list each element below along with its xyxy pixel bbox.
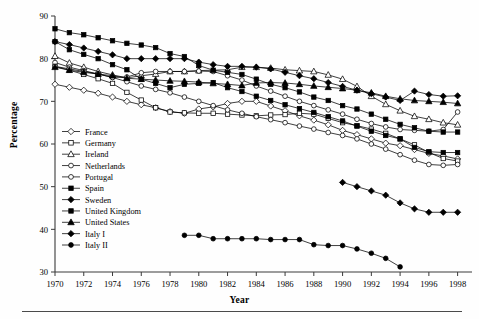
data-point-marker bbox=[383, 101, 389, 107]
data-point-marker bbox=[355, 124, 359, 128]
data-point-marker bbox=[369, 121, 374, 126]
data-point-marker bbox=[153, 106, 157, 110]
data-point-marker bbox=[69, 163, 74, 168]
data-point-marker bbox=[124, 98, 130, 104]
data-point-marker bbox=[326, 115, 330, 119]
legend-item-spain[interactable]: Spain bbox=[62, 184, 105, 193]
legend-item-label: Ireland bbox=[85, 150, 109, 159]
legend-item-italy-i[interactable]: Italy I bbox=[62, 230, 105, 239]
data-point-marker bbox=[69, 175, 74, 180]
data-point-marker bbox=[224, 100, 230, 106]
data-point-marker bbox=[53, 27, 57, 31]
legend-item-germany[interactable]: Germany bbox=[62, 139, 117, 148]
legend-item-label: United States bbox=[85, 218, 129, 227]
data-point-marker bbox=[340, 119, 344, 123]
data-point-marker bbox=[240, 89, 244, 93]
data-point-marker bbox=[109, 52, 115, 58]
legend-item-label: United Kingdom bbox=[85, 207, 142, 216]
legend-item-italy-ii[interactable]: Italy II bbox=[62, 241, 108, 250]
legend-item-united-kingdom[interactable]: United Kingdom bbox=[62, 207, 142, 216]
x-tick-label: 1994 bbox=[392, 279, 410, 289]
data-point-marker bbox=[383, 125, 388, 130]
x-tick-label: 1982 bbox=[219, 279, 236, 289]
data-point-marker bbox=[268, 89, 273, 94]
series-line bbox=[184, 235, 400, 267]
data-point-marker bbox=[254, 94, 258, 98]
legend-item-netherlands[interactable]: Netherlands bbox=[62, 162, 125, 171]
data-point-marker bbox=[311, 103, 316, 108]
x-tick-label: 1978 bbox=[161, 279, 178, 289]
data-point-marker bbox=[369, 251, 374, 256]
data-point-marker bbox=[109, 94, 115, 100]
y-tick-label: 60 bbox=[39, 139, 48, 149]
legend-item-ireland[interactable]: Ireland bbox=[62, 150, 109, 159]
data-point-marker bbox=[297, 124, 302, 129]
legend-item-sweden[interactable]: Sweden bbox=[62, 196, 112, 205]
data-point-marker bbox=[168, 85, 172, 89]
data-point-marker bbox=[68, 230, 74, 236]
data-point-marker bbox=[397, 107, 403, 113]
data-point-marker bbox=[297, 237, 302, 242]
y-tick-label: 40 bbox=[39, 225, 48, 235]
y-tick-label: 50 bbox=[39, 182, 48, 192]
data-point-marker bbox=[182, 69, 187, 74]
data-point-marker bbox=[239, 98, 245, 104]
line-chart: 3040506070809019701972197419761978198019… bbox=[0, 0, 479, 319]
data-point-marker bbox=[253, 98, 259, 104]
data-point-marker bbox=[311, 76, 317, 82]
data-point-marker bbox=[268, 103, 274, 109]
legend-item-label: Netherlands bbox=[85, 162, 125, 171]
data-point-marker bbox=[311, 242, 316, 247]
data-point-marker bbox=[110, 39, 114, 43]
x-tick-label: 1998 bbox=[449, 279, 466, 289]
x-tick-label: 1980 bbox=[190, 279, 207, 289]
data-point-marker bbox=[69, 209, 73, 213]
data-point-marker bbox=[283, 103, 287, 107]
data-point-marker bbox=[383, 140, 389, 146]
data-point-marker bbox=[125, 68, 129, 72]
data-point-marker bbox=[69, 141, 73, 145]
data-point-marker bbox=[339, 127, 345, 133]
legend-item-france[interactable]: France bbox=[62, 128, 108, 137]
x-tick-label: 1990 bbox=[334, 279, 351, 289]
y-tick-label: 90 bbox=[39, 11, 48, 21]
legend-item-label: Italy I bbox=[85, 230, 105, 239]
legend-item-portugal[interactable]: Portugal bbox=[62, 173, 114, 182]
data-point-marker bbox=[67, 30, 71, 34]
data-point-marker bbox=[268, 117, 273, 122]
data-point-marker bbox=[326, 98, 330, 102]
data-point-marker bbox=[82, 52, 86, 56]
data-point-marker bbox=[283, 112, 287, 116]
x-tick-label: 1992 bbox=[363, 279, 380, 289]
y-tick-label: 70 bbox=[39, 97, 48, 107]
data-point-marker bbox=[340, 133, 345, 138]
data-point-marker bbox=[68, 128, 74, 134]
data-point-marker bbox=[225, 108, 230, 113]
data-point-marker bbox=[167, 56, 173, 62]
x-tick-label: 1970 bbox=[46, 279, 63, 289]
data-point-marker bbox=[52, 81, 58, 87]
data-point-marker bbox=[340, 112, 345, 117]
data-point-marker bbox=[397, 143, 403, 149]
data-point-marker bbox=[412, 158, 417, 163]
data-point-marker bbox=[139, 43, 143, 47]
data-point-marker bbox=[210, 62, 216, 68]
data-point-marker bbox=[283, 94, 288, 99]
data-point-marker bbox=[398, 127, 403, 132]
data-point-marker bbox=[426, 91, 432, 97]
data-point-marker bbox=[81, 45, 87, 51]
x-tick-label: 1972 bbox=[75, 279, 92, 289]
data-point-marker bbox=[426, 209, 432, 215]
data-point-marker bbox=[339, 179, 345, 185]
data-point-marker bbox=[69, 186, 73, 190]
series-italy-ii bbox=[182, 233, 402, 269]
legend-item-united-states[interactable]: United States bbox=[62, 218, 129, 227]
data-point-marker bbox=[168, 69, 173, 74]
data-point-marker bbox=[325, 122, 331, 128]
data-point-marker bbox=[455, 162, 460, 167]
data-point-marker bbox=[125, 90, 129, 94]
data-point-marker bbox=[355, 247, 360, 252]
data-point-marker bbox=[455, 110, 460, 115]
data-point-marker bbox=[411, 88, 417, 94]
data-point-marker bbox=[398, 122, 402, 126]
